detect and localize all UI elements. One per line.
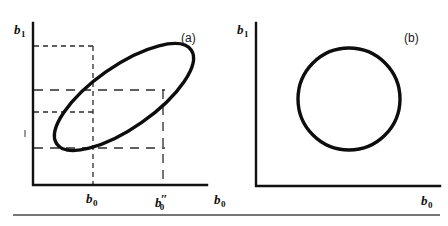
- panel-a-label: (a): [181, 32, 196, 44]
- panel-b-group: [256, 23, 440, 186]
- panel-a-group: [25, 23, 209, 185]
- panel-b-yaxis-label: b1: [237, 23, 249, 39]
- panel-a-axes: [33, 23, 207, 185]
- panel-a-xtick-b0: b0: [86, 192, 98, 208]
- figure-root: b1 (a) b0 b″0 b0 b1 (b) b0: [0, 0, 448, 226]
- panel-b-confidence-circle: [298, 48, 400, 150]
- panel-b-label: (b): [404, 32, 419, 44]
- panel-b-xaxis-label: b0: [421, 194, 433, 210]
- panel-a-xtick-b0-doubleprime: b″0: [155, 192, 164, 212]
- panel-a-xaxis-label: b0: [214, 193, 226, 209]
- panel-a-yaxis-label: b1: [14, 23, 26, 39]
